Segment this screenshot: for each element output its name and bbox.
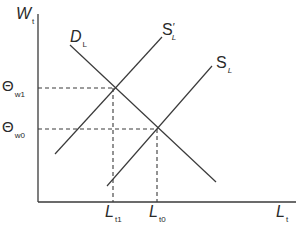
y-tick-w1: Θw1 [2,78,25,93]
demand-sub: L [83,40,87,49]
y-tick-w1-main: Θ [2,77,14,94]
x-tick-lt1-sub: t1 [115,215,122,224]
x-axis-main: L [276,203,285,220]
y-tick-w0-sub: w0 [15,131,25,140]
supply-shifted-prime: ′ [173,21,175,33]
x-tick-lt1-main: L [105,203,114,220]
supply-sub: L [228,66,232,75]
y-tick-w1-sub: w1 [15,90,25,99]
demand-label: DL [70,29,87,45]
supply-shifted-sub: L [172,33,176,42]
supply-main: S [216,54,227,71]
x-tick-lt0: Lt0 [149,204,166,220]
x-tick-lt0-main: L [149,203,158,220]
supply-shifted-label: S′L [162,22,176,38]
y-axis-main: W [16,5,31,22]
supply-shifted-curve [55,37,162,154]
y-tick-w0-main: Θ [2,118,14,135]
x-tick-lt0-sub: t0 [159,215,166,224]
x-axis-sub: t [286,215,288,224]
supply-curve [107,66,212,186]
diagram-canvas [0,0,305,225]
y-tick-w0: Θw0 [2,119,25,134]
x-tick-lt1: Lt1 [105,204,122,220]
demand-main: D [70,28,82,45]
y-axis-label: Wt [16,6,34,22]
supply-label: SL [216,55,232,71]
x-axis-label: Lt [276,204,288,220]
